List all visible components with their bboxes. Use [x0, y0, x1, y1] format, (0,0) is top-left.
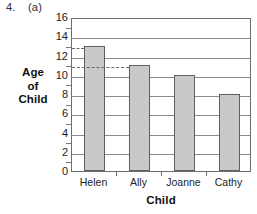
- y-tick-label-12: 12: [40, 51, 68, 62]
- bar-joanne: [174, 75, 195, 171]
- y-tick-label-16: 16: [40, 12, 68, 23]
- y-tick-label-8: 8: [40, 89, 68, 100]
- guide-11: [72, 67, 129, 68]
- question-number: 4.: [6, 1, 28, 13]
- y-tick-label-10: 10: [40, 70, 68, 81]
- bar-ally: [129, 65, 150, 171]
- x-axis-label-helen: Helen: [71, 176, 116, 188]
- x-axis-title: Child: [71, 194, 251, 206]
- y-tick-label-4: 4: [40, 128, 68, 139]
- y-tick-label-6: 6: [40, 108, 68, 119]
- y-tick-label-14: 14: [40, 31, 68, 42]
- x-axis-label-ally: Ally: [116, 176, 161, 188]
- x-axis-label-cathy: Cathy: [206, 176, 251, 188]
- y-tick-label-0: 0: [40, 166, 68, 177]
- bar-chart-plot-area: [71, 18, 251, 172]
- bar-cathy: [219, 94, 240, 171]
- plot-inner: [72, 19, 250, 171]
- x-axis-label-joanne: Joanne: [161, 176, 206, 188]
- y-tick-label-2: 2: [40, 147, 68, 158]
- gridline-14: [72, 38, 250, 39]
- guide-13: [72, 48, 84, 49]
- bar-helen: [84, 46, 105, 171]
